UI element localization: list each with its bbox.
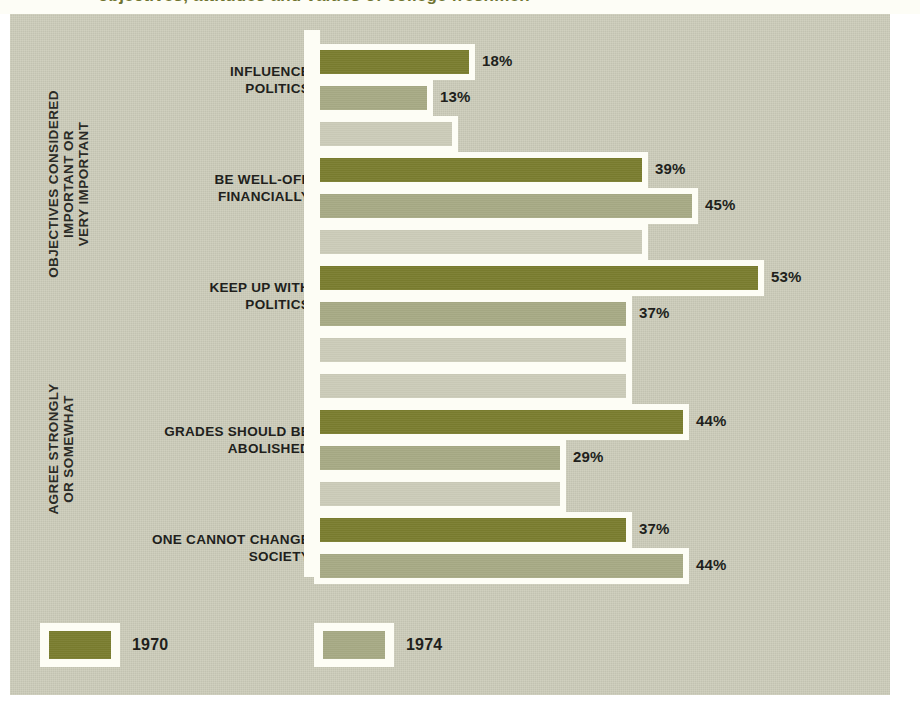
- bar-fill-1974: [320, 554, 683, 578]
- bar-fill-1970: [320, 50, 469, 74]
- bar-fill-1974: [320, 194, 692, 218]
- bar-outline: [314, 80, 433, 116]
- category-label-column: INFLUENCE POLITICSBE WELL-OFF FINANCIALL…: [30, 14, 310, 695]
- legend-item-1974[interactable]: 1974: [314, 623, 442, 667]
- page-top-bleed: objectives, attitudes and values of coll…: [0, 0, 920, 14]
- category-label-1: BE WELL-OFF FINANCIALLY: [50, 171, 310, 205]
- legend-swatch-1970: [49, 631, 111, 659]
- bar-spacer-fill: [320, 122, 452, 146]
- bar-outline: [314, 404, 689, 440]
- bleed-text: objectives, attitudes and values of coll…: [98, 0, 530, 6]
- bar-outline: [314, 188, 698, 224]
- bar-value-label: 45%: [705, 196, 736, 213]
- bar-value-label: 39%: [655, 160, 686, 177]
- bar-outline: [314, 44, 475, 80]
- bar-spacer-fill: [320, 338, 626, 362]
- chart-legend: 1970 1974: [32, 623, 872, 669]
- bar-fill-1974: [320, 446, 560, 470]
- bar-outline: [314, 368, 632, 404]
- bar-spacer-fill: [320, 230, 642, 254]
- bar-outline: [314, 260, 764, 296]
- bar-outline: [314, 512, 632, 548]
- bar-outline: [314, 548, 689, 584]
- bar-value-label: 13%: [440, 88, 471, 105]
- category-label-4: ONE CANNOT CHANGE SOCIETY: [50, 531, 310, 565]
- bar-fill-1970: [320, 266, 758, 290]
- bar-outline: [314, 152, 648, 188]
- bar-fill-1974: [320, 302, 626, 326]
- legend-swatch-outer-1974: [314, 623, 394, 667]
- category-label-3: GRADES SHOULD BE ABOLISHED: [50, 423, 310, 457]
- legend-item-1970[interactable]: 1970: [40, 623, 168, 667]
- legend-label-1970: 1970: [132, 636, 168, 654]
- legend-label-1974: 1974: [406, 636, 442, 654]
- category-label-0: INFLUENCE POLITICS: [50, 63, 310, 97]
- bar-fill-1970: [320, 518, 626, 542]
- bar-fill-1970: [320, 158, 642, 182]
- legend-swatch-outer-1970: [40, 623, 120, 667]
- bar-outline: [314, 476, 566, 512]
- bar-fill-1970: [320, 410, 683, 434]
- bar-value-label: 53%: [771, 268, 802, 285]
- chart-panel: OBJECTIVES CONSIDERED IMPORTANT OR VERY …: [10, 14, 890, 695]
- bar-spacer-fill: [320, 482, 560, 506]
- bar-spacer-fill: [320, 374, 626, 398]
- bar-value-label: 18%: [482, 52, 513, 69]
- bar-outline: [314, 224, 648, 260]
- bar-outline: [314, 296, 632, 332]
- legend-swatch-1974: [323, 631, 385, 659]
- plot-area: 18%13%39%45%53%37%44%29%37%44%: [304, 30, 890, 590]
- bar-value-label: 44%: [696, 412, 727, 429]
- bar-value-label: 37%: [639, 520, 670, 537]
- bar-outline: [314, 332, 632, 368]
- bar-value-label: 29%: [573, 448, 604, 465]
- category-label-2: KEEP UP WITH POLITICS: [50, 279, 310, 313]
- bar-outline: [314, 116, 458, 152]
- bar-value-label: 44%: [696, 556, 727, 573]
- bar-value-label: 37%: [639, 304, 670, 321]
- bar-fill-1974: [320, 86, 427, 110]
- bar-outline: [314, 440, 566, 476]
